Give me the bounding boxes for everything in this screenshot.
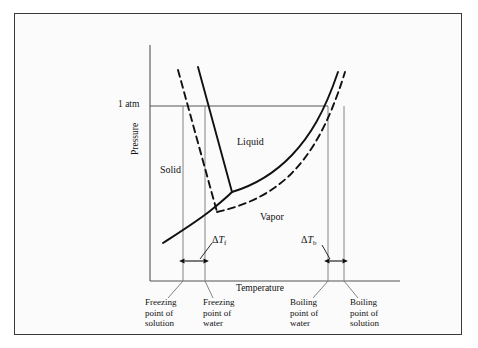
phase-diagram-graphic	[0, 0, 478, 348]
leader-freezing-point-solution	[168, 281, 183, 298]
vertical-guide-lines	[183, 106, 344, 281]
callout-line: Boiling	[350, 297, 406, 308]
callout-line: Freezing	[203, 297, 259, 308]
water-vaporization-curve	[232, 72, 338, 192]
leader-freezing-point-water	[205, 281, 213, 298]
one-atm-tick-label: 1 atm	[118, 99, 139, 110]
region-label-vapor: Vapor	[260, 211, 284, 222]
delta-tf-arrow-group	[185, 243, 213, 261]
callout-freezing-point-water: Freezing point of water	[203, 297, 259, 329]
delta-tf-subscript: f	[224, 239, 226, 247]
callout-line: solution	[350, 318, 406, 329]
callout-boiling-point-water: Boiling point of water	[290, 297, 346, 329]
delta-tb-label: ΔTb	[301, 234, 317, 247]
callout-line: Freezing	[145, 297, 201, 308]
solution-fusion-curve	[178, 70, 217, 212]
callout-line: point of	[290, 308, 346, 319]
x-axis-label: Temperature	[236, 283, 284, 294]
delta-tb-subscript: b	[313, 239, 317, 247]
callout-line: Boiling	[290, 297, 346, 308]
region-label-liquid: Liquid	[237, 136, 264, 147]
region-label-solid: Solid	[160, 164, 181, 175]
callout-boiling-point-solution: Boiling point of solution	[350, 297, 406, 329]
figure-root: Pressure Temperature 1 atm Solid Liquid …	[0, 0, 478, 348]
callout-line: water	[290, 318, 346, 329]
leader-boiling-point-water	[313, 281, 328, 298]
callout-line: solution	[145, 318, 201, 329]
water-curve-group	[163, 67, 338, 243]
water-fusion-curve	[198, 67, 232, 192]
delta-tf-label: ΔTf	[212, 234, 226, 247]
delta-tf-leader	[200, 243, 212, 259]
leader-boiling-point-solution	[344, 281, 358, 298]
callout-freezing-point-solution: Freezing point of solution	[145, 297, 201, 329]
callout-line: water	[203, 318, 259, 329]
delta-tb-leader	[322, 245, 330, 259]
callout-line: point of	[350, 308, 406, 319]
callout-line: point of	[145, 308, 201, 319]
delta-tb-arrow-group	[322, 245, 343, 261]
callout-line: point of	[203, 308, 259, 319]
axes-group	[150, 45, 400, 281]
